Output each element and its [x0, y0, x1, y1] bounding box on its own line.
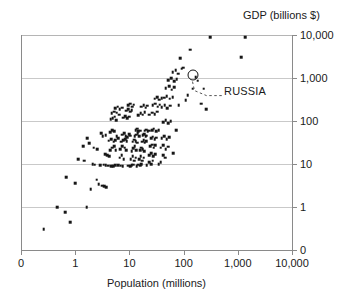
y-axis-tick-label: 0	[300, 245, 306, 256]
data-point	[157, 129, 160, 132]
data-point	[141, 159, 144, 162]
data-point	[113, 130, 116, 133]
gridline	[22, 78, 293, 79]
data-point	[130, 150, 133, 153]
data-point	[177, 73, 180, 76]
data-point	[209, 36, 212, 39]
data-point	[130, 158, 133, 161]
data-point	[176, 78, 179, 81]
data-point	[109, 131, 112, 134]
data-point	[179, 57, 182, 60]
y-axis-title: GDP (billions $)	[243, 9, 320, 22]
data-point	[191, 88, 194, 91]
data-point	[134, 145, 137, 148]
data-point	[168, 136, 171, 139]
data-point	[154, 144, 157, 147]
y-axis-tick	[292, 164, 297, 165]
russia-highlight-marker	[187, 69, 198, 80]
data-point	[202, 88, 205, 91]
data-point	[122, 158, 125, 161]
russia-annotation-label: RUSSIA	[224, 86, 266, 97]
data-point	[182, 66, 185, 69]
data-point	[140, 163, 143, 166]
data-point	[86, 137, 89, 140]
data-point	[113, 116, 116, 119]
scatter-chart: GDP (billions $) 10,0001,0001001010 0110…	[0, 0, 351, 299]
y-axis-tick-label: 1	[300, 202, 306, 213]
data-point	[165, 148, 168, 151]
data-point	[169, 105, 172, 108]
y-axis-tick	[292, 35, 297, 36]
data-point	[92, 146, 95, 149]
data-point	[155, 136, 158, 139]
data-point	[89, 188, 92, 191]
y-axis-tick	[292, 207, 297, 208]
data-point	[117, 137, 120, 140]
data-point	[105, 186, 108, 189]
data-point	[196, 79, 199, 82]
data-point	[77, 158, 80, 161]
x-axis-tick-label: 0	[18, 258, 24, 269]
data-point	[167, 146, 170, 149]
data-point	[177, 104, 180, 107]
data-point	[42, 228, 45, 231]
data-point	[145, 134, 148, 137]
data-point	[88, 142, 91, 145]
data-point	[118, 113, 121, 116]
data-point	[172, 152, 175, 155]
data-point	[109, 149, 112, 152]
data-point	[139, 129, 142, 132]
data-point	[104, 134, 107, 137]
x-axis-tick-label: 1	[72, 258, 78, 269]
data-point	[146, 105, 149, 108]
data-point	[115, 149, 118, 152]
data-point	[187, 94, 190, 97]
data-point	[171, 96, 174, 99]
data-point	[136, 142, 139, 145]
x-axis-tick-label: 100	[174, 258, 192, 269]
data-point	[189, 48, 192, 51]
data-point	[96, 148, 99, 151]
data-point	[69, 221, 72, 224]
x-axis-tick	[292, 250, 293, 255]
x-axis-tick	[21, 250, 22, 255]
data-point	[144, 111, 147, 114]
data-point	[135, 156, 138, 159]
data-point	[152, 155, 155, 158]
data-point	[113, 145, 116, 148]
data-point	[125, 149, 128, 152]
data-point	[135, 149, 138, 152]
data-point	[65, 176, 68, 179]
x-axis-tick-label: 10	[123, 258, 135, 269]
data-point	[159, 161, 162, 164]
data-point	[152, 159, 155, 162]
data-point	[114, 164, 117, 167]
data-point	[170, 88, 173, 91]
y-axis-tick	[292, 78, 297, 79]
data-point	[97, 183, 100, 186]
data-point	[118, 156, 121, 159]
data-point	[121, 165, 124, 168]
x-axis-tick	[184, 250, 185, 255]
y-axis-tick-label: 10	[300, 159, 312, 170]
data-point	[153, 113, 156, 116]
plot-area	[21, 35, 292, 250]
y-axis-tick-label: 100	[300, 116, 318, 127]
x-axis-tick	[75, 250, 76, 255]
data-point	[108, 155, 111, 158]
data-point	[205, 108, 208, 111]
data-point	[174, 69, 177, 72]
data-point	[120, 154, 123, 157]
data-point	[82, 145, 85, 148]
x-axis-tick	[238, 250, 239, 255]
data-point	[200, 103, 203, 106]
data-point	[119, 148, 122, 151]
data-point	[156, 110, 159, 113]
data-point	[175, 129, 178, 132]
data-point	[83, 159, 86, 162]
data-point	[143, 150, 146, 153]
x-axis-tick-label: 10,000	[275, 258, 309, 269]
data-point	[138, 135, 141, 138]
data-point	[142, 113, 145, 116]
data-point	[165, 87, 168, 90]
